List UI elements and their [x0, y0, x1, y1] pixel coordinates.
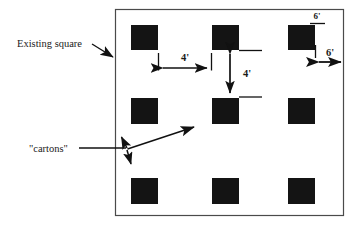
existing-square-leader	[92, 44, 113, 57]
carton-r1c1	[131, 25, 158, 50]
carton-r3c2	[212, 178, 239, 204]
carton-r3c3	[288, 178, 315, 204]
diagram-root: 4' 4' 6' 6' Existing square "cartons"	[0, 0, 361, 230]
cartons-arrow-long	[128, 127, 195, 149]
carton-r1c3	[288, 25, 315, 50]
dim-right-clearance-label: 6'	[326, 47, 334, 58]
carton-r1c2	[212, 25, 239, 50]
dim-vertical-label: 4'	[243, 68, 251, 79]
diagram-canvas: 4' 4' 6' 6' Existing square "cartons"	[0, 0, 361, 230]
carton-r2c1	[131, 98, 158, 124]
carton-r2c3	[288, 98, 315, 124]
carton-r3c1	[131, 178, 158, 204]
existing-square-label: Existing square	[17, 38, 82, 49]
cartons-label: "cartons"	[29, 143, 68, 154]
cartons-arrow-down	[127, 150, 131, 164]
cartons-arrow-up	[122, 137, 128, 148]
dim-horizontal-label: 4'	[181, 52, 189, 63]
dim-top-clearance-label: 6'	[313, 11, 320, 21]
carton-r2c2	[212, 98, 239, 124]
